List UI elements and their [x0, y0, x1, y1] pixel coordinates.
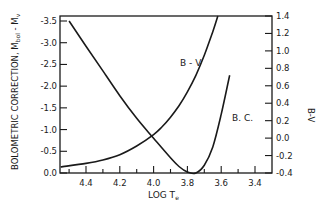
- y-tick-label: -1.0: [40, 125, 57, 135]
- x-tick-label: 4.0: [147, 178, 161, 188]
- plot-frame: [60, 16, 272, 173]
- y2-tick-label: 0.8: [276, 63, 290, 73]
- y2-tick-label: 1.0: [276, 46, 290, 56]
- x-axis-label: LOG Te: [148, 190, 179, 201]
- y2-axis-label: B-V: [306, 108, 316, 122]
- y-axis-label: BOLOMETRIC CORRECTION, Mbol - Mv: [10, 13, 21, 170]
- y-tick-label: -2.0: [40, 81, 57, 91]
- y2-axis-ticks: 1.41.21.00.80.60.40.20.0-0.2-0.4: [265, 11, 293, 178]
- y-tick-label: 0.0: [43, 168, 57, 178]
- y2-tick-label: -0.4: [276, 168, 293, 178]
- y-tick-label: -2.5: [40, 59, 57, 69]
- bv-curve-label: B - V: [180, 58, 202, 68]
- bv-curve: [61, 16, 218, 167]
- y2-tick-label: 1.4: [276, 11, 290, 21]
- curves: [61, 16, 230, 174]
- y-tick-label: -3.5: [40, 16, 57, 26]
- y2-tick-label: 0.6: [276, 81, 290, 91]
- y-tick-label: -3.0: [40, 38, 57, 48]
- x-tick-label: 3.6: [214, 178, 228, 188]
- x-tick-label: 4.4: [79, 178, 93, 188]
- y2-tick-label: 0.0: [276, 133, 290, 143]
- bc-curve: [69, 21, 230, 174]
- y2-tick-label: -0.2: [276, 151, 293, 161]
- x-tick-label: 4.2: [113, 178, 127, 188]
- y2-tick-label: 1.2: [276, 28, 290, 38]
- y2-tick-label: 0.2: [276, 116, 290, 126]
- x-axis-ticks: 4.44.24.03.83.63.4: [69, 166, 262, 188]
- y-tick-label: -0.5: [40, 146, 57, 156]
- x-tick-label: 3.4: [248, 178, 262, 188]
- y2-tick-label: 0.4: [276, 98, 290, 108]
- y-tick-label: -1.5: [40, 103, 57, 113]
- bc-curve-label: B. C.: [232, 113, 253, 123]
- y-axis-ticks: -3.5-3.0-2.5-2.0-1.5-1.0-0.50.0: [40, 16, 67, 178]
- x-tick-label: 3.8: [181, 178, 195, 188]
- chart: 4.44.24.03.83.63.4 -3.5-3.0-2.5-2.0-1.5-…: [0, 0, 322, 210]
